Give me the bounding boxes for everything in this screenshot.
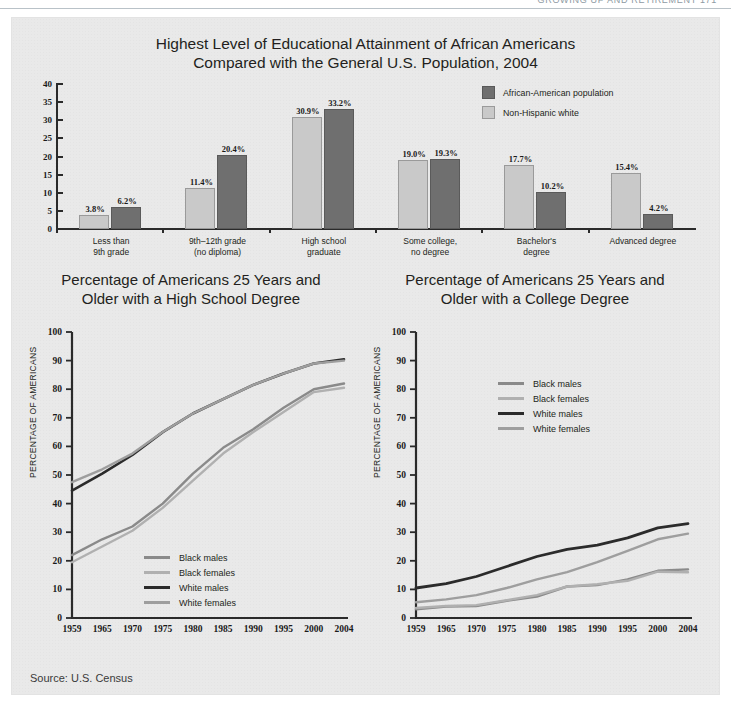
bar-value-label: 20.4% (210, 144, 256, 154)
bar-chart-y-tick-label: 40 (43, 79, 52, 89)
legend-line-icon (144, 586, 170, 589)
line-chart-legend-item: Black males (498, 376, 590, 391)
bar-chart-y-tick (56, 210, 63, 212)
bar-chart-category-label: Advanced degree (583, 236, 703, 247)
legend-swatch-icon (482, 106, 495, 119)
bar-chart-category-line: degree (477, 247, 597, 258)
bar-chart-category-line: Less than (51, 236, 171, 247)
bar-chart-category-line: Advanced degree (583, 236, 703, 247)
bar-chart-category-label: Some college,no degree (370, 236, 490, 257)
legend-line-icon (498, 427, 524, 430)
running-head: GROWING UP AND RETIREMENT 171 (0, 0, 731, 14)
line-chart-legend-item: Black females (498, 391, 590, 406)
line-chart-legend-label: Black females (533, 394, 589, 404)
bar-value-label: 17.7% (497, 154, 543, 164)
bar-chart-category-line: Some college, (370, 236, 490, 247)
line-chart-legend: Black malesBlack femalesWhite malesWhite… (144, 550, 236, 610)
bar-african-american: 20.4% (217, 155, 247, 229)
line-chart-legend-label: White males (179, 583, 229, 593)
line-series-black-males (72, 384, 344, 556)
bar-chart-y-tick-label: 0 (48, 224, 53, 234)
bar-chart-category-label: High schoolgraduate (264, 236, 384, 257)
bar-chart-y-tick (56, 174, 63, 176)
line-chart-plot (370, 318, 700, 668)
bar-chart-y-tick-label: 25 (43, 133, 52, 143)
bar-chart-y-tick-label: 10 (43, 188, 52, 198)
bar-group: 30.9%33.2% (271, 84, 377, 229)
bar-chart-legend-item: African-American population (482, 86, 700, 99)
bar-chart-category-line: (no diploma) (158, 247, 278, 258)
line-chart-legend-label: Black females (179, 568, 235, 578)
bar-non-hispanic-white: 30.9% (292, 117, 322, 229)
line-chart-college-title-line2: Older with a College Degree (370, 289, 700, 308)
bar-chart-y-tick (56, 83, 63, 85)
line-series-black-females (416, 572, 688, 608)
bar-chart-title-line1: Highest Level of Educational Attainment … (12, 34, 719, 53)
line-series-white-males (72, 359, 344, 491)
bar-chart-x-tick (269, 228, 271, 233)
line-chart-college-title-line1: Percentage of Americans 25 Years and (370, 270, 700, 289)
bar-african-american: 33.2% (324, 109, 354, 229)
line-chart-legend-item: Black females (144, 565, 236, 580)
bar-value-label: 33.2% (317, 98, 363, 108)
legend-line-icon (498, 397, 524, 400)
bar-chart-category-label: Less than9th grade (51, 236, 171, 257)
bar-value-label: 6.2% (104, 196, 150, 206)
bar-chart-y-tick-label: 20 (43, 152, 52, 162)
line-chart-legend-item: White males (498, 406, 590, 421)
bar-chart-y-tick (56, 137, 63, 139)
running-head-text: GROWING UP AND RETIREMENT 171 (538, 0, 718, 5)
bar-value-label: 15.4% (604, 162, 650, 172)
bar-chart-y-tick (56, 192, 63, 194)
bar-chart-x-tick (481, 228, 483, 233)
source-note: Source: U.S. Census (30, 672, 133, 684)
bar-chart-legend-item: Non-Hispanic white (482, 106, 700, 119)
bar-chart-title: Highest Level of Educational Attainment … (12, 34, 719, 72)
bar-chart-y-axis-labels: 4035302520151050 (30, 84, 52, 230)
bar-group: 19.0%19.3% (377, 84, 483, 229)
legend-line-icon (498, 412, 524, 415)
line-chart-highschool-title-line2: Older with a High School Degree (26, 289, 356, 308)
bar-chart-legend-label: African-American population (503, 88, 614, 98)
bar-chart-x-tick (162, 228, 164, 233)
line-chart-college: 0102030405060708090100195919651970197519… (370, 318, 700, 668)
line-chart-legend-label: Black males (533, 379, 582, 389)
line-chart-legend-item: White females (498, 421, 590, 436)
bar-chart-x-tick (56, 228, 58, 233)
bar-chart-category-label: 9th–12th grade(no diploma) (158, 236, 278, 257)
bar-african-american: 19.3% (430, 159, 460, 229)
bar-chart-category-line: 9th–12th grade (158, 236, 278, 247)
bar-chart-y-tick-label: 5 (48, 206, 53, 216)
line-chart-legend-label: Black males (179, 553, 228, 563)
line-chart-legend-item: White females (144, 595, 236, 610)
line-chart-y-axis-title: PERCENTAGE OF AMERICANS (28, 347, 38, 478)
line-chart-legend-item: White males (144, 580, 236, 595)
bar-chart-category-line: Bachelor's (477, 236, 597, 247)
bar-chart-category-line: 9th grade (51, 247, 171, 258)
bar-chart-y-tick (56, 156, 63, 158)
bar-non-hispanic-white: 3.8% (79, 215, 109, 229)
bar-chart-x-tick (375, 228, 377, 233)
line-chart-legend-label: White females (533, 424, 590, 434)
bar-chart-y-tick-label: 15 (43, 170, 52, 180)
legend-line-icon (144, 571, 170, 574)
legend-swatch-icon (482, 86, 495, 99)
bar-value-label: 4.2% (636, 203, 682, 213)
bar-non-hispanic-white: 19.0% (398, 160, 428, 229)
bar-chart-y-tick-label: 35 (43, 97, 52, 107)
line-series-white-females (72, 361, 344, 483)
legend-line-icon (498, 382, 524, 385)
bar-chart-category-label: Bachelor'sdegree (477, 236, 597, 257)
bar-chart: 4035302520151050 3.8%6.2%11.4%20.4%30.9%… (30, 84, 700, 254)
bar-chart-category-line: no degree (370, 247, 490, 258)
bar-chart-y-tick (56, 101, 63, 103)
line-chart-legend-label: White males (533, 409, 583, 419)
bar-chart-y-tick-label: 30 (43, 115, 52, 125)
bar-value-label: 19.3% (423, 148, 469, 158)
bar-group: 11.4%20.4% (164, 84, 270, 229)
bar-african-american: 10.2% (536, 192, 566, 229)
bar-non-hispanic-white: 17.7% (504, 165, 534, 229)
bar-value-label: 10.2% (529, 181, 575, 191)
running-head-rule (0, 8, 731, 9)
line-chart-highschool: 0102030405060708090100195919651970197519… (26, 318, 356, 668)
